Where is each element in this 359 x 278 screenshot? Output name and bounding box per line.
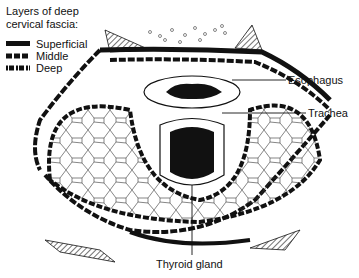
dashed-line-icon — [6, 53, 30, 59]
trachea — [160, 119, 224, 186]
solid-line-icon — [6, 41, 30, 47]
legend-item-superficial: Superficial — [6, 38, 87, 50]
legend-item-deep: Deep — [6, 62, 87, 74]
subcutaneous-dots — [149, 25, 227, 44]
dotted-dash-line-icon — [6, 65, 30, 71]
legend-item-middle: Middle — [6, 50, 87, 62]
esophagus — [144, 76, 240, 108]
esophagus-label: Esophagus — [288, 74, 343, 86]
trachea-label: Trachea — [308, 107, 348, 119]
legend-title: Layers of deep cervical fascia: — [6, 5, 87, 31]
thyroid-gland-label: Thyroid gland — [156, 258, 223, 270]
fascia-legend: Layers of deep cervical fascia: Superfic… — [6, 5, 87, 74]
